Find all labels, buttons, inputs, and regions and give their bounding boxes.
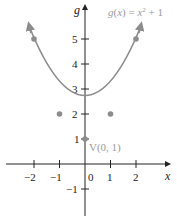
x-axis-label: x (164, 169, 171, 183)
y-tick-label: 2 (72, 108, 78, 120)
y-tick-label: 5 (72, 33, 78, 45)
y-tick-label: −1 (66, 183, 78, 195)
function-label: g(x) = x2 + 1 (108, 6, 163, 19)
point-1 (108, 111, 114, 117)
point-2 (133, 36, 139, 42)
x-tick-label: 1 (107, 171, 113, 183)
point-neg2 (31, 36, 37, 42)
point-vertex (82, 136, 88, 142)
x-tick-label: −2 (24, 171, 36, 183)
y-axis-label: g (74, 3, 80, 17)
point-neg1 (57, 111, 63, 117)
parabola-chart: x g −2 −1 0 1 2 −1 1 2 3 4 5 g(x) = x (0, 0, 177, 219)
x-tick-label: −1 (50, 171, 62, 183)
y-tick-label: 4 (72, 58, 78, 70)
vertex-label: V(0, 1) (89, 141, 121, 154)
y-tick-label: 1 (74, 133, 80, 145)
x-tick-label: 2 (133, 171, 139, 183)
x-tick-label: 0 (88, 171, 94, 183)
